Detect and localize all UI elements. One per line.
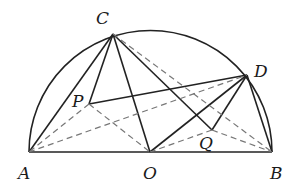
segment-CA [29, 34, 113, 152]
segment-CB-dashed [113, 34, 272, 152]
segment-QB-dashed [212, 130, 272, 152]
label-O: O [143, 163, 157, 183]
label-B: B [269, 163, 283, 183]
segment-DQ [212, 75, 247, 130]
label-P: P [71, 91, 84, 111]
label-C: C [96, 8, 109, 28]
geometry-diagram: A B O C D P Q [0, 0, 299, 196]
segment-DB [247, 75, 272, 152]
segment-AD-dashed [29, 75, 247, 152]
label-D: D [253, 61, 268, 81]
segment-PD [89, 75, 247, 104]
semicircle-arc [29, 31, 272, 152]
label-A: A [16, 163, 30, 183]
label-Q: Q [199, 133, 213, 153]
